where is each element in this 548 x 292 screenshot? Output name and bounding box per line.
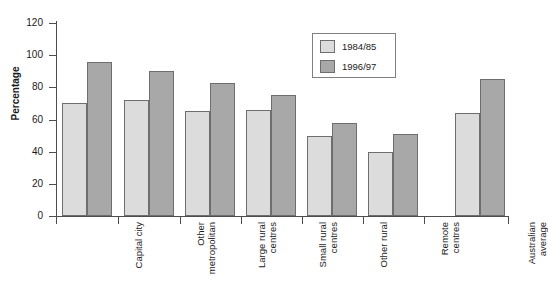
chart-legend: 1984/85 1996/97 [312,33,396,78]
y-axis-tick-label: 120 [3,18,43,28]
y-axis-tick [49,120,57,121]
bar [210,83,235,216]
x-axis-tick [508,217,509,224]
y-axis-tick [49,55,57,56]
bar [332,123,357,216]
legend-swatch-icon [320,40,335,53]
x-axis-category-label: Capital city [134,222,145,292]
y-axis-tick [49,184,57,185]
x-axis-category-label: Large rural centres [257,222,278,292]
bar [455,113,480,216]
x-axis-category-label: Small rural centres [318,222,339,292]
bar [480,79,505,216]
y-axis-tick-label: 0 [3,211,43,221]
y-axis-tick-label: 60 [3,115,43,125]
bar [149,71,174,216]
bar [393,134,418,216]
legend-item-0: 1984/85 [320,39,376,53]
plot-area [57,23,508,216]
x-axis-tick [118,217,119,224]
y-axis-tick [49,87,57,88]
bar [368,152,393,216]
x-axis-tick [241,217,242,224]
bar [62,103,87,216]
x-axis-category-label: Other metropolitan [196,222,217,292]
x-axis-tick [180,217,181,224]
legend-item-1: 1996/97 [320,59,376,73]
x-axis-category-label: Remote centres [440,222,461,292]
y-axis-tick-label: 100 [3,50,43,60]
x-axis-line [56,216,509,217]
y-axis-tick [49,152,57,153]
y-axis-tick-label: 40 [3,147,43,157]
bar [271,95,296,216]
legend-label: 1984/85 [342,41,376,52]
x-axis-category-label: Other rural [379,222,390,292]
y-axis-tick-label: 20 [3,179,43,189]
bar [87,62,112,216]
y-axis-tick [49,23,57,24]
x-axis-tick [424,217,425,224]
legend-label: 1996/97 [342,61,376,72]
x-axis-tick [56,217,57,224]
x-axis-category-label: Australian average [527,222,548,292]
bar [185,111,210,216]
x-axis-tick [302,217,303,224]
x-axis-tick [363,217,364,224]
bar [246,110,271,216]
y-axis-tick-label: 80 [3,82,43,92]
legend-swatch-icon [320,60,335,73]
bar [307,136,332,216]
bar [124,100,149,216]
